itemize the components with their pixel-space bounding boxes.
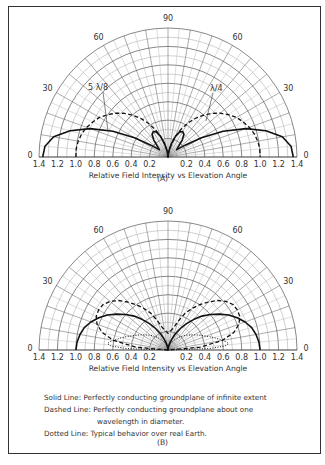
radial-tick-label: 1.2 xyxy=(51,353,64,362)
radial-tick-label: 0.6 xyxy=(106,160,119,169)
legend-dashed-continued: wavelength in diameter. xyxy=(44,416,267,428)
radial-tick-label: 0.2 xyxy=(143,160,156,169)
angle-tick-label: 60 xyxy=(93,226,103,235)
panel-b-label: (B) xyxy=(0,438,325,447)
angle-tick-label: 60 xyxy=(232,33,242,42)
angle-tick-label: 0 xyxy=(27,151,32,160)
axis-label: Relative Field Intensity vs Elevation An… xyxy=(89,364,248,373)
angle-tick-label: 30 xyxy=(43,84,53,93)
radial-tick-label: 0.4 xyxy=(125,353,138,362)
polar-chart-a: 0306090603001.41.21.00.80.60.40.20.20.40… xyxy=(0,0,325,200)
legend-solid: Solid Line: Perfectly conducting groundp… xyxy=(44,392,267,404)
radial-tick-label: 0.8 xyxy=(88,160,101,169)
radial-tick-label: 1.2 xyxy=(272,160,285,169)
annotation-lambda-4: λ/4 xyxy=(210,84,223,93)
radial-tick-label: 1.4 xyxy=(33,353,46,362)
radial-tick-label: 1.4 xyxy=(291,353,304,362)
annotation-5-lambda-8: 5 λ/8 xyxy=(88,83,108,92)
polar-chart-b: 0306090603001.41.21.00.80.60.40.20.20.40… xyxy=(0,193,325,393)
angle-tick-label: 30 xyxy=(283,277,293,286)
radial-tick-label: 0.2 xyxy=(180,353,193,362)
radial-tick-label: 0.6 xyxy=(217,353,230,362)
radial-tick-label: 1.0 xyxy=(69,353,82,362)
angle-tick-label: 0 xyxy=(303,151,308,160)
radial-tick-label: 0.8 xyxy=(235,353,248,362)
panel-a-label: (A) xyxy=(0,174,325,183)
angle-tick-label: 0 xyxy=(27,344,32,353)
legend: Solid Line: Perfectly conducting groundp… xyxy=(44,392,267,440)
radial-tick-label: 1.4 xyxy=(291,160,304,169)
radial-tick-label: 0.2 xyxy=(143,353,156,362)
angle-tick-label: 0 xyxy=(303,344,308,353)
angle-tick-label: 30 xyxy=(43,277,53,286)
radial-tick-label: 0.8 xyxy=(235,160,248,169)
radial-tick-label: 0.6 xyxy=(106,353,119,362)
radial-tick-label: 1.0 xyxy=(69,160,82,169)
angle-tick-label: 30 xyxy=(283,84,293,93)
angle-tick-label: 60 xyxy=(93,33,103,42)
radial-tick-label: 1.2 xyxy=(272,353,285,362)
radial-tick-label: 1.4 xyxy=(33,160,46,169)
radial-tick-label: 0.8 xyxy=(88,353,101,362)
angle-tick-label: 60 xyxy=(232,226,242,235)
radial-tick-label: 1.2 xyxy=(51,160,64,169)
angle-tick-label: 90 xyxy=(163,207,173,216)
radial-tick-label: 1.0 xyxy=(254,160,267,169)
radial-tick-label: 0.4 xyxy=(198,160,211,169)
legend-dashed: Dashed Line: Perfectly conducting ground… xyxy=(44,404,267,416)
radial-tick-label: 0.4 xyxy=(198,353,211,362)
radial-tick-label: 0.6 xyxy=(217,160,230,169)
radial-tick-label: 0.2 xyxy=(180,160,193,169)
radial-tick-label: 1.0 xyxy=(254,353,267,362)
angle-tick-label: 90 xyxy=(163,14,173,23)
radial-tick-label: 0.4 xyxy=(125,160,138,169)
